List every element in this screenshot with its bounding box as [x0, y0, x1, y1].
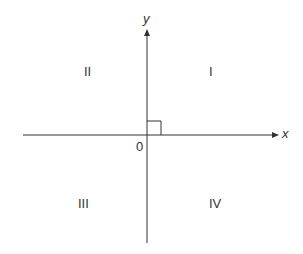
quadrant-iv-label: IV	[209, 197, 221, 210]
x-axis-arrow-icon	[272, 132, 279, 138]
y-axis-arrow-icon	[144, 29, 150, 36]
x-axis-label: x	[282, 127, 289, 140]
y-axis-label: y	[143, 12, 150, 25]
quadrant-i-label: I	[209, 65, 213, 78]
quadrant-iii-label: III	[78, 197, 89, 210]
axes-graphic	[0, 0, 303, 254]
coordinate-plane-diagram: y x 0 II I III IV	[0, 0, 303, 254]
quadrant-ii-label: II	[84, 65, 91, 78]
right-angle-marker	[147, 121, 161, 135]
origin-label: 0	[136, 140, 143, 153]
